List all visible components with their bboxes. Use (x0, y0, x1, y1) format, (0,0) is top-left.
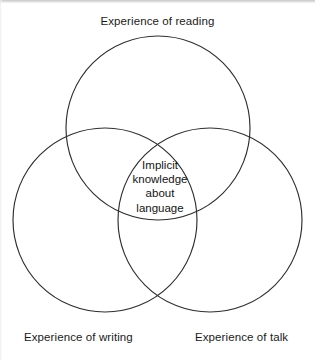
center-line-2: knowledge (118, 172, 202, 186)
label-experience-of-reading: Experience of reading (0, 15, 315, 28)
center-line-1: Implicit (118, 158, 202, 172)
label-experience-of-writing: Experience of writing (24, 331, 133, 344)
center-intersection-label: Implicit knowledge about language (118, 158, 202, 215)
label-experience-of-talk: Experience of talk (195, 331, 288, 344)
circle-experience-of-talk (118, 128, 302, 312)
circle-experience-of-writing (13, 128, 197, 312)
center-line-3: about (118, 186, 202, 200)
center-line-4: language (118, 201, 202, 215)
venn-diagram: Experience of reading Experience of writ… (0, 0, 315, 360)
